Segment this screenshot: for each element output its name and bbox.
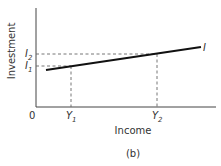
y1-label: Y1 bbox=[66, 110, 77, 124]
curve-label: I bbox=[203, 42, 206, 53]
x-axis-title: Income bbox=[115, 125, 152, 136]
y-axis-title: Investment bbox=[6, 23, 17, 80]
investment-line bbox=[46, 47, 201, 70]
figure-caption: (b) bbox=[126, 148, 140, 159]
y2-label: Y2 bbox=[152, 110, 163, 124]
investment-income-chart: I I2 I1 0 Y1 Y2 Investment Income (b) bbox=[0, 0, 221, 166]
i1-label: I1 bbox=[25, 60, 32, 74]
origin-label: 0 bbox=[29, 110, 35, 121]
